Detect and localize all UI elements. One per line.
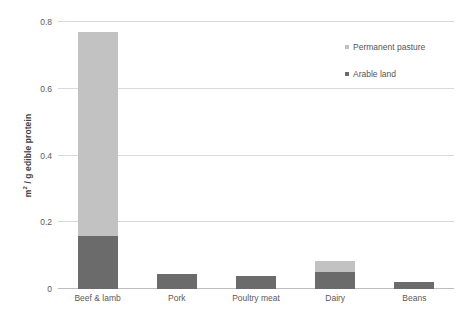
bar-stack [236,276,276,289]
stacked-bar-chart: m2 / g edible protein 00.20.40.60.8 Beef… [0,0,462,318]
legend-item-label: Permanent pasture [353,42,425,52]
y-axis-tick-label: 0.8 [10,17,52,27]
bar-segment-arable-land [394,282,434,289]
y-axis-tick-label: 0.4 [10,151,52,161]
legend-swatch-icon [345,45,349,49]
x-axis-tick-label: Pork [137,293,216,303]
x-axis-tick-label: Beans [375,293,454,303]
legend-item-label: Arable land [353,69,396,79]
bar-segment-permanent-pasture [315,261,355,272]
bar-stack [78,32,118,289]
bar-group [236,22,276,289]
chart-legend: Permanent pastureArable land [345,42,460,96]
bar-stack [394,282,434,289]
bar-segment-arable-land [157,274,197,289]
bar-segment-arable-land [78,236,118,289]
bar-stack [157,274,197,289]
legend-swatch-icon [345,72,349,76]
x-axis-tick-label: Dairy [296,293,375,303]
x-axis-tick-labels: Beef & lambPorkPoultry meatDairyBeans [58,293,454,309]
y-axis-tick-label: 0.2 [10,217,52,227]
legend-item[interactable]: Arable land [345,69,460,79]
y-axis-tick-label: 0.6 [10,84,52,94]
y-axis-tick-labels: 00.20.40.60.8 [0,22,52,289]
bar-group [157,22,197,289]
x-axis-tick-label: Beef & lamb [58,293,137,303]
bar-segment-arable-land [315,272,355,289]
bar-stack [315,261,355,289]
bar-group [78,22,118,289]
y-axis-tick-label: 0 [10,284,52,294]
bar-segment-permanent-pasture [78,32,118,236]
x-axis-tick-label: Poultry meat [216,293,295,303]
bar-segment-arable-land [236,276,276,289]
legend-item[interactable]: Permanent pasture [345,42,460,52]
